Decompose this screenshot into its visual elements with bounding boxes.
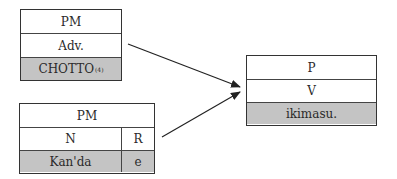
adverb-word-row: CHOTTO(4) — [21, 57, 121, 80]
adverb-box: PM Adv. CHOTTO(4) — [20, 9, 122, 81]
noun-phrase-header-row: PM — [20, 104, 154, 127]
adverb-word-cell: CHOTTO(4) — [21, 58, 121, 80]
arrow-nounphrase-to-predicate — [162, 92, 240, 137]
adverb-category-row: Adv. — [21, 33, 121, 57]
predicate-category-row: V — [247, 79, 376, 102]
noun-word: Kan'da — [20, 151, 121, 172]
predicate-word-row: ikimasu. — [247, 102, 376, 124]
arrow-adverb-to-predicate — [128, 44, 240, 87]
noun-phrase-header: PM — [20, 104, 154, 127]
footnote-marker: (4) — [95, 66, 104, 73]
predicate-header-row: P — [247, 56, 376, 79]
predicate-header: P — [247, 56, 376, 79]
noun-category: N — [20, 128, 121, 150]
adverb-word: CHOTTO — [38, 62, 94, 76]
predicate-category: V — [247, 80, 376, 102]
particle-category: R — [121, 128, 154, 150]
adverb-header: PM — [21, 10, 121, 33]
predicate-box: P V ikimasu. — [246, 55, 377, 126]
noun-phrase-category-row: N R — [20, 127, 154, 150]
adverb-category: Adv. — [21, 34, 121, 57]
predicate-word: ikimasu. — [247, 103, 376, 124]
noun-phrase-word-row: Kan'da e — [20, 150, 154, 172]
adverb-header-row: PM — [21, 10, 121, 33]
noun-phrase-box: PM N R Kan'da e — [19, 103, 155, 174]
particle-word: e — [121, 151, 154, 172]
